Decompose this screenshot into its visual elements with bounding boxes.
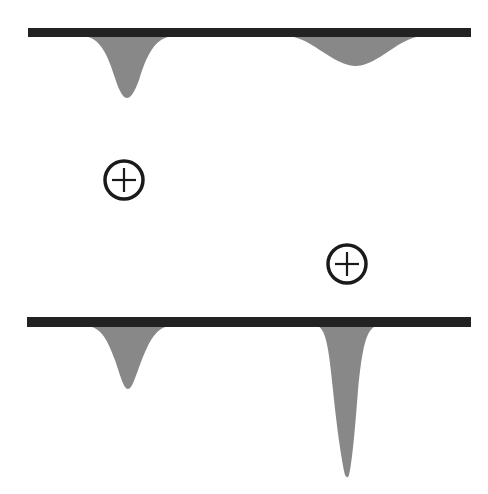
bottom-surface-depression-left xyxy=(85,326,172,389)
diagram-canvas xyxy=(0,0,488,494)
positive-charge-icon xyxy=(105,161,143,199)
positive-charge-icon xyxy=(328,245,366,283)
bottom-surface xyxy=(27,317,471,327)
bottom-surface-depression-right xyxy=(316,326,378,477)
top-surface xyxy=(28,28,471,37)
top-surface-depression-right xyxy=(285,36,425,66)
top-surface-depression-left xyxy=(82,36,175,98)
